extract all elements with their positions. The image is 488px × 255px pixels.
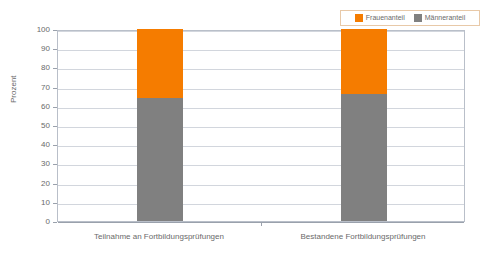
legend-swatch-maenneranteil [414, 14, 422, 22]
x-axis-label-1: Teilnahme an Fortbildungsprüfungen [94, 231, 224, 242]
y-axis: 1009080706050403020100 [0, 30, 57, 222]
y-tick-label-70: 70 [41, 82, 50, 93]
legend-label-maenneranteil: Männeranteil [425, 14, 465, 22]
plot-area [57, 30, 465, 222]
y-tick-label-60: 60 [41, 101, 50, 112]
legend-entry-frauenanteil: Frauenanteil [355, 14, 405, 22]
legend-entry-maenneranteil: Männeranteil [414, 14, 465, 22]
legend-label-frauenanteil: Frauenanteil [366, 14, 405, 22]
bar-segment-männeranteil [137, 98, 183, 221]
grid-lines [58, 31, 464, 221]
gridline-100 [58, 31, 464, 32]
y-tick-label-30: 30 [41, 158, 50, 169]
bar-segment-frauenanteil [341, 29, 387, 94]
gridline-50 [58, 127, 464, 128]
y-tick-label-0: 0 [46, 216, 50, 227]
x-axis: Teilnahme an FortbildungsprüfungenBestan… [57, 222, 465, 248]
gridline-40 [58, 146, 464, 147]
y-tick-label-10: 10 [41, 197, 50, 208]
bar-segment-männeranteil [341, 94, 387, 221]
legend-swatch-frauenanteil [355, 14, 363, 22]
x-axis-tick-mark [261, 222, 262, 226]
y-tick-label-100: 100 [37, 24, 50, 35]
y-tick-label-20: 20 [41, 178, 50, 189]
y-tick-label-90: 90 [41, 43, 50, 54]
bar-1 [137, 29, 183, 221]
gridline-20 [58, 185, 464, 186]
gridline-90 [58, 50, 464, 51]
y-tick-label-50: 50 [41, 120, 50, 131]
gridline-10 [58, 204, 464, 205]
gridline-80 [58, 69, 464, 70]
x-axis-label-2: Bestandene Fortbildungsprüfungen [301, 231, 426, 242]
y-tick-label-80: 80 [41, 62, 50, 73]
bar-2 [341, 29, 387, 221]
gridline-60 [58, 108, 464, 109]
gridline-70 [58, 89, 464, 90]
bar-segment-frauenanteil [137, 29, 183, 98]
y-tick-label-40: 40 [41, 139, 50, 150]
chart-legend: Frauenanteil Männeranteil [340, 10, 480, 26]
gridline-30 [58, 165, 464, 166]
